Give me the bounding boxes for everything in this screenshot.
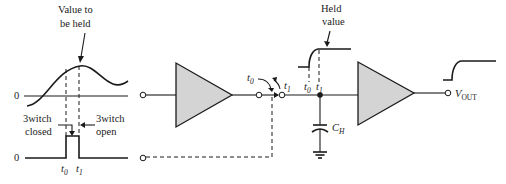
t1-label-switch: t1 — [284, 80, 291, 94]
input-signal-curve — [27, 66, 128, 106]
held-value-label-1: Held — [321, 3, 342, 14]
value-arrow-head — [78, 56, 84, 63]
t0-close-arrow — [258, 79, 271, 89]
held-value-arrow-head — [324, 41, 330, 47]
switch-closed-label-2: closed — [25, 126, 53, 137]
capacitor-label: CH — [332, 122, 345, 136]
value-to-be-held-label-1: Value to — [58, 4, 93, 15]
switch-blade-arrow — [274, 92, 279, 98]
zero-label-control: 0 — [14, 152, 19, 163]
sample-switch: t0 t1 — [146, 72, 291, 157]
switch-closed-arrow — [58, 125, 72, 132]
input-terminal — [140, 92, 146, 98]
switch-contact-left — [256, 92, 262, 98]
t0-close-arrow-head — [268, 88, 274, 92]
control-pulse: 3witch closed 3witch open 0 t0 t1 — [14, 113, 128, 177]
ground-icon — [313, 152, 327, 158]
output-waveform — [443, 61, 496, 80]
value-arrow — [81, 33, 85, 57]
output-terminal — [445, 90, 451, 96]
switch-closed-label-1: 3witch — [23, 113, 52, 124]
switch-open-label-2: open — [96, 126, 117, 137]
held-value-label-2: value — [322, 16, 345, 27]
value-to-be-held-label-2: be held — [60, 18, 91, 29]
t0-label-pulse: t0 — [61, 163, 68, 177]
t0-label-switch: t0 — [247, 72, 254, 86]
switch-contact-right — [279, 92, 285, 98]
vout-label: VOUT — [455, 88, 477, 102]
zero-label-input: 0 — [14, 90, 19, 101]
held-value-waveform: Held value t0 t1 — [298, 3, 351, 95]
output-amplifier — [358, 62, 414, 125]
switch-open-label-1: 3witch — [96, 113, 125, 124]
input-amplifier — [176, 63, 232, 127]
control-terminal — [140, 155, 146, 161]
held-value-arrow — [327, 31, 330, 43]
switch-open-arrow-head — [80, 122, 85, 128]
t1-label-held: t1 — [316, 81, 323, 95]
hold-capacitor: CH — [312, 95, 345, 152]
t1-label-pulse: t1 — [76, 163, 83, 177]
t0-label-held: t0 — [304, 81, 311, 95]
t1-open-arrow — [274, 80, 280, 89]
held-value-curve — [298, 49, 351, 67]
pulse-waveform — [25, 136, 128, 158]
sample-and-hold-diagram: Value to be held 0 3witch closed 3witch … — [0, 0, 506, 184]
